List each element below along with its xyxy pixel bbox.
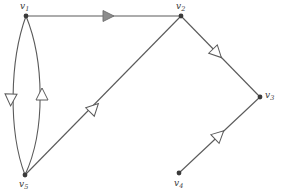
node-label-v4-sub: 4 bbox=[179, 182, 183, 190]
node-label-v5: v5 bbox=[19, 180, 28, 189]
node-label-v3: v3 bbox=[265, 91, 274, 100]
arrowhead-v1-v2-filled bbox=[103, 11, 114, 22]
node-label-v1: v1 bbox=[20, 2, 29, 11]
graph-canvas bbox=[0, 0, 281, 195]
edge-layer bbox=[13, 16, 260, 175]
node-v3[interactable] bbox=[258, 95, 263, 100]
node-label-v5-sub: 5 bbox=[24, 183, 28, 191]
node-label-v3-sub: 3 bbox=[270, 94, 274, 102]
node-label-v2: v2 bbox=[176, 2, 185, 11]
arrowhead-v5-v2-hollow bbox=[86, 99, 103, 116]
arrowhead-v1-v5-hollow bbox=[5, 94, 17, 106]
node-v1[interactable] bbox=[24, 14, 29, 19]
node-label-v1-sub: 1 bbox=[25, 5, 29, 13]
node-label-v4: v4 bbox=[174, 179, 183, 188]
node-layer bbox=[23, 14, 263, 178]
arrowhead-v5-v1-hollow bbox=[36, 88, 48, 100]
node-v4[interactable] bbox=[177, 171, 182, 176]
node-v2[interactable] bbox=[179, 14, 184, 19]
directed-graph-figure: v1 v2 v3 v4 v5 bbox=[0, 0, 281, 195]
edge-v5-v2 bbox=[25, 16, 181, 175]
node-v5[interactable] bbox=[23, 173, 28, 178]
node-label-v2-sub: 2 bbox=[181, 5, 185, 13]
